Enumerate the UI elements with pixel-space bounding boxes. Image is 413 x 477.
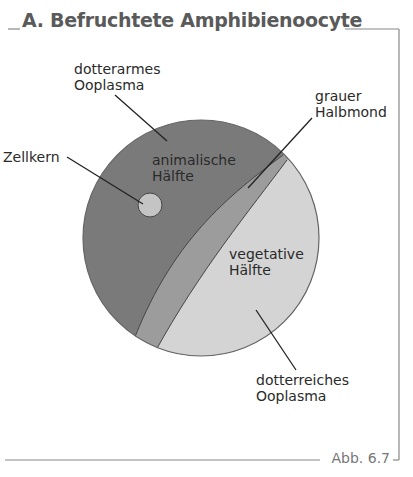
label-dotterarmes: dotterarmes Ooplasma — [74, 61, 160, 93]
label-animal-half: animalische Hälfte — [152, 152, 236, 184]
label-zellkern: Zellkern — [3, 149, 60, 165]
label-dotterreiches: dotterreiches Ooplasma — [256, 372, 349, 404]
label-grauer-halbmond: grauer Halbmond — [315, 88, 387, 120]
figure-title: A. Befruchtete Amphibienoocyte — [22, 9, 362, 31]
oocyte-diagram — [0, 0, 413, 477]
figure-caption: Abb. 6.7 — [328, 450, 393, 466]
leader-dotterarmes — [115, 95, 167, 141]
label-vegetal-half: vegetative Hälfte — [229, 246, 304, 278]
nucleus — [138, 193, 162, 217]
